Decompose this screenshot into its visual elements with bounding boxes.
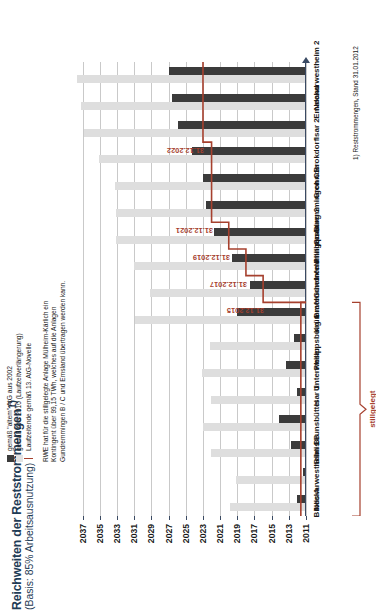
bar-old-atg [206,201,306,209]
bar-group [74,67,306,83]
bar-group [74,441,306,457]
bar-group [74,174,306,190]
bar-old-atg [279,415,306,423]
bar-old-atg [237,308,306,316]
legend-item-old-atg: gemäß "altem" AtG aus 2002 [6,152,15,462]
chart-note-line: Gundremmingen B / C und Emsland übertrag… [59,142,67,462]
axis-tick-label: 2011 [301,524,311,543]
legend-item-13-atg-novelle: Laufzeitende gemäß 13. AtG-Novelle [25,152,34,462]
bar-group [74,388,306,404]
bar-atg-2010 [99,155,306,163]
bar-old-atg [192,147,306,155]
axis-tick [100,516,101,520]
axis-tick [220,516,221,520]
bar-atg-2010 [202,369,306,377]
axis-tick [169,516,170,520]
bar-atg-2010 [211,396,306,404]
legend-label: Laufzeitende gemäß 13. AtG-Novelle [25,343,33,451]
bar-atg-2010 [84,129,306,137]
category-label: Brokdorf [312,139,321,173]
red-line-icon [25,455,32,462]
chart-note-line: RWE hat für die stillgelegte Anlage Mülh… [42,142,50,462]
bar-group [74,228,306,244]
gridline [306,62,307,516]
bar-group [74,121,306,137]
chart-legend: gemäß "altem" AtG aus 2002 gemäß AtG 201… [6,152,34,462]
value-axis [305,62,306,516]
legend-label: gemäß "altem" AtG aus 2002 [6,366,14,451]
bar-atg-2010 [203,423,306,431]
axis-tick-label: 2015 [267,524,277,543]
shutdown-bracket-label: stillgelegt [368,391,376,428]
axis-tick-label: 2017 [249,524,259,543]
axis-tick-label: 2035 [95,524,105,543]
bar-atg-2010 [211,449,306,457]
bar-series-group [74,62,306,516]
bar-atg-2010 [134,262,306,270]
bar-old-atg [250,281,306,289]
bar-atg-2010 [210,342,306,350]
chart-stage: Reichweiten der Reststrommengen1) (Basis… [0,0,376,612]
bar-atg-2010 [115,182,306,190]
axis-tick [117,516,118,520]
axis-tick-label: 2037 [78,524,88,543]
bar-old-atg [214,228,306,236]
bar-atg-2010 [77,75,306,83]
legend-label: gemäß AtG 2010 (Laufzeitverlängerung) [15,333,23,451]
axis-tick-label: 2023 [198,524,208,543]
axis-tick [186,516,187,520]
bar-group [74,147,306,163]
axis-arrow-icon [302,57,310,63]
axis-tick [203,516,204,520]
legend-item-atg-2010: gemäß AtG 2010 (Laufzeitverlängerung) [15,152,24,462]
axis-tick-label: 2033 [112,524,122,543]
bar-old-atg [172,94,306,102]
axis-tick [272,516,273,520]
axis-tick [306,516,307,520]
bar-group [74,468,306,484]
bar-atg-2010 [230,503,306,511]
chart-note-line: Kontingent über 99,15 TWh, welches auf d… [50,142,58,462]
dark-square-icon [7,455,14,462]
bracket-path [352,302,366,516]
bar-atg-2010 [116,209,306,217]
bar-atg-2010 [81,102,306,110]
bar-group [74,281,306,297]
footnote: 1) Reststrommengen, Stand 31.01.2012 [352,46,359,160]
axis-tick [151,516,152,520]
bar-old-atg [178,121,306,129]
bar-atg-2010 [236,476,306,484]
bar-group [74,308,306,324]
bar-atg-2010 [150,289,306,297]
category-label: Brunsbüttel [312,400,321,445]
axis-tick-label: 2021 [215,524,225,543]
bar-group [74,495,306,511]
bar-atg-2010 [135,316,306,324]
bar-group [74,361,306,377]
axis-tick-label: 2027 [164,524,174,543]
chart-figure: Reichweiten der Reststrommengen1) (Basis… [0,0,376,612]
category-label: Isar 2 [312,118,321,139]
bar-old-atg [286,361,306,369]
axis-tick [83,516,84,520]
chart-note: RWE hat für die stillgelegte Anlage Mülh… [42,142,67,462]
axis-tick-label: 2031 [129,524,139,543]
axis-tick [289,516,290,520]
axis-tick [237,516,238,520]
bar-group [74,94,306,110]
axis-tick-label: 2025 [181,524,191,543]
bar-group [74,334,306,350]
light-square-icon [16,455,23,462]
bar-old-atg [169,67,306,75]
plot-area [74,62,306,516]
axis-tick [134,516,135,520]
axis-tick-label: 2029 [146,524,156,543]
bar-group [74,254,306,270]
bar-atg-2010 [116,236,306,244]
axis-tick-label: 2019 [232,524,242,543]
axis-tick-label: 2013 [284,524,294,543]
category-label: Neckarwestheim 2 [312,40,321,110]
bar-old-atg [203,174,306,182]
bar-old-atg [232,254,306,262]
bar-group [74,201,306,217]
